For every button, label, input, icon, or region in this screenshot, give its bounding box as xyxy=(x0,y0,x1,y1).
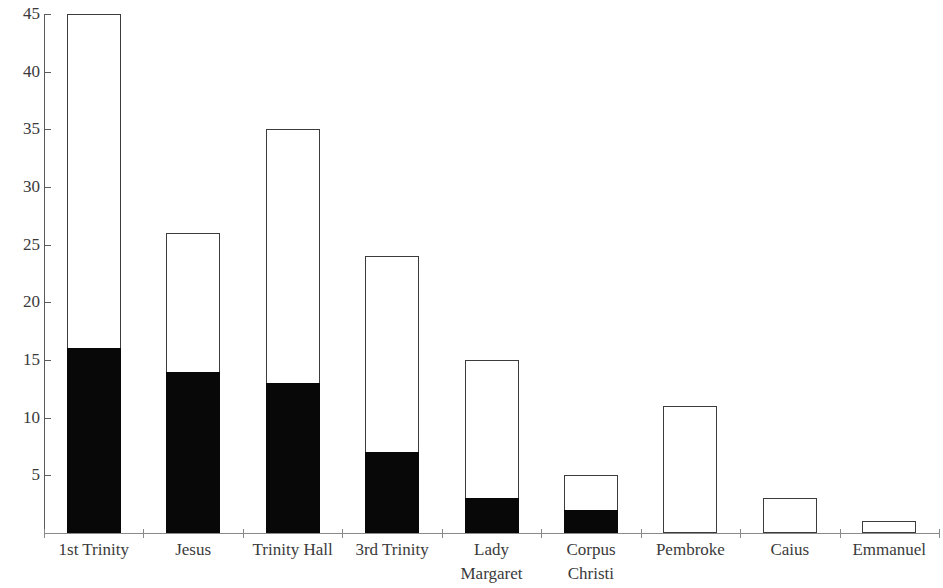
bar-filled-segment xyxy=(67,348,121,533)
y-tick-label-text: 15 xyxy=(6,351,40,368)
y-tick-label: 30 xyxy=(0,178,40,195)
x-tick-mark xyxy=(541,529,542,538)
y-tick-label-text: 20 xyxy=(6,293,40,310)
x-axis-category-label-line1: Caius xyxy=(770,540,809,559)
plot-area xyxy=(44,14,939,533)
y-tick-label-text: 30 xyxy=(6,178,40,195)
bar xyxy=(266,129,320,533)
y-tick-label: 10 xyxy=(0,409,40,426)
bar xyxy=(862,521,916,533)
bar-filled-segment xyxy=(166,372,220,533)
bar xyxy=(763,498,817,533)
y-tick-label: 35 xyxy=(0,120,40,137)
bar xyxy=(365,256,419,533)
y-tick-label-text: 25 xyxy=(6,236,40,253)
x-axis-category-label-line1: Jesus xyxy=(175,540,211,559)
y-tick-label: 40 xyxy=(0,63,40,80)
y-tick-label: 15 xyxy=(0,351,40,368)
x-axis-category-label-line1: 1st Trinity xyxy=(59,540,129,559)
y-tick-label-text: 35 xyxy=(6,120,40,137)
x-tick-mark xyxy=(641,529,642,538)
y-tick-label: 25 xyxy=(0,236,40,253)
y-tick-label-text: 40 xyxy=(6,63,40,80)
y-tick-label-text: 5 xyxy=(6,466,40,483)
x-tick-mark xyxy=(143,529,144,538)
bar xyxy=(67,14,121,533)
bar-filled-segment xyxy=(465,498,519,533)
y-tick-label: 5 xyxy=(0,466,40,483)
x-tick-mark xyxy=(442,529,443,538)
x-tick-mark xyxy=(44,529,45,538)
bar-filled-segment xyxy=(564,510,618,533)
x-axis-category-label-line1: Trinity Hall xyxy=(253,540,333,559)
bar xyxy=(465,360,519,533)
x-tick-mark xyxy=(939,529,940,538)
y-tick-label-text: 45 xyxy=(6,5,40,22)
bar xyxy=(663,406,717,533)
x-tick-mark xyxy=(243,529,244,538)
bar-chart: 51015202530354045 1st TrinityJesusTrinit… xyxy=(0,0,943,588)
x-tick-mark xyxy=(840,529,841,538)
bar-filled-segment xyxy=(365,452,419,533)
x-tick-mark xyxy=(342,529,343,538)
x-axis-category-label-line1: Pembroke xyxy=(656,540,725,559)
x-axis-category-label: Emmanuel xyxy=(830,538,943,562)
x-axis-category-label-line1: 3rd Trinity xyxy=(355,540,428,559)
bar-filled-segment xyxy=(266,383,320,533)
bar xyxy=(564,475,618,533)
y-tick-label: 45 xyxy=(0,5,40,22)
x-axis-labels: 1st TrinityJesusTrinity Hall3rd TrinityL… xyxy=(0,538,943,588)
x-tick-mark xyxy=(740,529,741,538)
x-axis-category-label-line1: Emmanuel xyxy=(852,540,926,559)
bar xyxy=(166,233,220,533)
y-tick-label: 20 xyxy=(0,293,40,310)
x-axis-category-label-line1: Lady xyxy=(474,540,509,559)
x-axis-line xyxy=(44,533,939,534)
x-axis-category-label-line1: Corpus xyxy=(566,540,615,559)
y-tick-label-text: 10 xyxy=(6,409,40,426)
x-axis-category-label-line2: Christi xyxy=(531,562,650,586)
